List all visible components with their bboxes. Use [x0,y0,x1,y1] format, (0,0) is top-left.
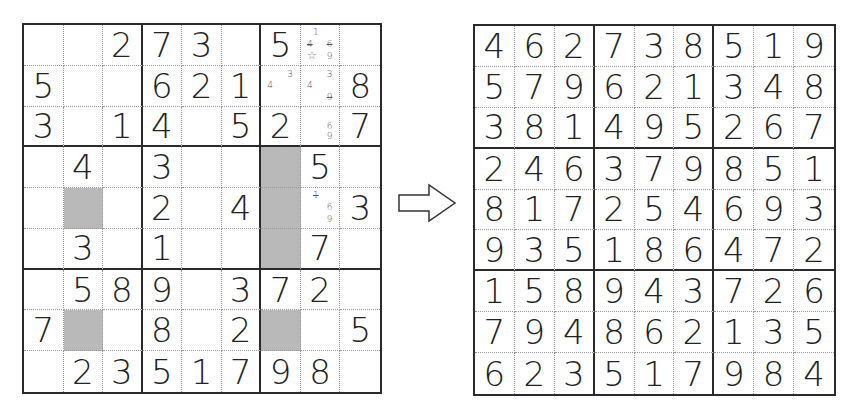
puzzle-cell-r3c2[interactable] [64,107,104,148]
puzzle-cell-r9c8[interactable]: 8 [301,351,341,392]
puzzle-cell-r6c3[interactable] [103,229,143,270]
puzzle-cell-r3c9[interactable]: 7 [340,107,380,148]
puzzle-cell-r8c5[interactable] [182,310,222,351]
puzzle-cell-r5c2[interactable] [64,188,104,229]
puzzle-cell-r2c3[interactable] [103,66,143,107]
puzzle-cell-r5c3[interactable] [103,188,143,229]
puzzle-cell-r9c4[interactable]: 5 [143,351,183,392]
solution-cell-r7c7: 7 [714,271,754,312]
puzzle-cell-r3c6[interactable]: 5 [222,107,262,148]
puzzle-cell-r8c1[interactable]: 7 [24,310,64,351]
puzzle-cell-r4c7[interactable] [261,147,301,188]
cell-digit: 9 [563,70,585,104]
puzzle-cell-r1c9[interactable] [340,25,380,66]
puzzle-cell-r3c4[interactable]: 4 [143,107,183,148]
puzzle-cell-r5c4[interactable]: 2 [143,188,183,229]
puzzle-cell-r9c6[interactable]: 7 [222,351,262,392]
puzzle-cell-r6c9[interactable] [340,229,380,270]
solution-cell-r7c5: 4 [635,271,675,312]
puzzle-cell-r7c5[interactable] [182,270,222,311]
puzzle-cell-r1c7[interactable]: 5 [261,25,301,66]
puzzle-cell-r1c4[interactable]: 7 [143,25,183,66]
puzzle-cell-r7c3[interactable]: 8 [103,270,143,311]
pencil-mark: 6 [327,203,333,212]
star-icon: ☆ [307,50,317,61]
puzzle-cell-r4c5[interactable] [182,147,222,188]
puzzle-cell-r6c4[interactable]: 1 [143,229,183,270]
puzzle-cell-r6c6[interactable] [222,229,262,270]
puzzle-cell-r6c2[interactable]: 3 [64,229,104,270]
puzzle-cell-r6c1[interactable] [24,229,64,270]
puzzle-cell-r1c8[interactable]: 1469☆ [301,25,341,66]
puzzle-cell-r2c2[interactable] [64,66,104,107]
puzzle-cell-r5c6[interactable]: 4 [222,188,262,229]
puzzle-cell-r2c9[interactable]: 8 [340,66,380,107]
cell-digit: 9 [763,192,785,226]
puzzle-cell-r9c5[interactable]: 1 [182,351,222,392]
solution-cell-r3c6: 5 [674,108,714,149]
solution-cell-r2c8: 4 [754,67,794,108]
puzzle-cell-r5c9[interactable]: 3 [340,188,380,229]
puzzle-cell-r4c2[interactable]: 4 [64,147,104,188]
puzzle-cell-r6c5[interactable] [182,229,222,270]
puzzle-cell-r3c7[interactable]: 2 [261,107,301,148]
puzzle-cell-r8c4[interactable]: 8 [143,310,183,351]
puzzle-cell-r8c7[interactable] [261,310,301,351]
puzzle-cell-r8c6[interactable]: 2 [222,310,262,351]
puzzle-cell-r6c8[interactable]: 7 [301,229,341,270]
cell-digit: 2 [524,357,546,391]
solution-cell-r1c1: 4 [475,26,515,67]
puzzle-cell-r3c5[interactable] [182,107,222,148]
cell-digit: 1 [683,70,705,104]
puzzle-cell-r2c5[interactable]: 2 [182,66,222,107]
puzzle-cell-r9c1[interactable] [24,351,64,392]
puzzle-cell-r8c2[interactable] [64,310,104,351]
puzzle-cell-r4c6[interactable] [222,147,262,188]
puzzle-cell-r8c9[interactable]: 5 [340,310,380,351]
puzzle-cell-r5c8[interactable]: 169 [301,188,341,229]
puzzle-cell-r3c3[interactable]: 1 [103,107,143,148]
puzzle-cell-r8c8[interactable] [301,310,341,351]
puzzle-cell-r7c8[interactable]: 2 [301,270,341,311]
puzzle-cell-r2c6[interactable]: 1 [222,66,262,107]
puzzle-cell-r5c5[interactable] [182,188,222,229]
puzzle-cell-r4c1[interactable] [24,147,64,188]
puzzle-cell-r4c3[interactable] [103,147,143,188]
puzzle-cell-r7c9[interactable] [340,270,380,311]
puzzle-cell-r4c4[interactable]: 3 [143,147,183,188]
puzzle-cell-r7c7[interactable]: 7 [261,270,301,311]
puzzle-cell-r4c8[interactable]: 5 [301,147,341,188]
solution-grid: 4627385195796213483814952672463798518172… [473,24,836,396]
puzzle-cell-r1c2[interactable] [64,25,104,66]
puzzle-cell-r2c8[interactable]: 349 [301,66,341,107]
puzzle-cell-r7c6[interactable]: 3 [222,270,262,311]
solution-cell-r9c6: 7 [674,353,714,394]
puzzle-cell-r9c2[interactable]: 2 [64,351,104,392]
puzzle-cell-r9c7[interactable]: 9 [261,351,301,392]
puzzle-cell-r4c9[interactable] [340,147,380,188]
puzzle-cell-r5c1[interactable] [24,188,64,229]
puzzle-cell-r8c3[interactable] [103,310,143,351]
puzzle-cell-r5c7[interactable] [261,188,301,229]
puzzle-cell-r1c5[interactable]: 3 [182,25,222,66]
puzzle-cell-r9c3[interactable]: 3 [103,351,143,392]
puzzle-cell-r1c6[interactable] [222,25,262,66]
puzzle-cell-r3c1[interactable]: 3 [24,107,64,148]
puzzle-cell-r7c1[interactable] [24,270,64,311]
puzzle-cell-r2c7[interactable]: 34 [261,66,301,107]
puzzle-cell-r2c1[interactable]: 5 [24,66,64,107]
puzzle-cell-r1c3[interactable]: 2 [103,25,143,66]
puzzle-cell-r7c4[interactable]: 9 [143,270,183,311]
puzzle-cell-r1c1[interactable] [24,25,64,66]
cell-digit: 4 [524,152,546,186]
solution-cell-r5c1: 8 [475,190,515,231]
cell-digit: 7 [643,152,665,186]
solution-cell-r2c3: 9 [555,67,595,108]
puzzle-cell-r2c4[interactable]: 6 [143,66,183,107]
solution-cell-r8c9: 5 [794,312,834,353]
puzzle-cell-r3c8[interactable]: 69 [301,107,341,148]
puzzle-cell-r7c2[interactable]: 5 [64,270,104,311]
puzzle-cell-r9c9[interactable] [340,351,380,392]
solution-cell-r4c4: 3 [595,149,635,190]
puzzle-cell-r6c7[interactable] [261,229,301,270]
